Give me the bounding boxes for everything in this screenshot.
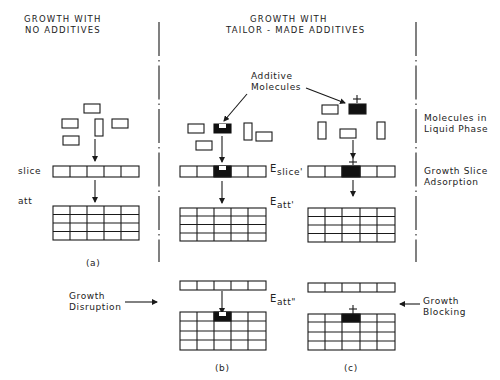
label-molecules-liquid-1: Molecules in [424, 113, 487, 124]
panel-a-slice [53, 166, 139, 177]
label-growth-slice-1: Growth Slice [424, 166, 488, 177]
label-molecules-liquid-2: Liquid Phase [424, 124, 488, 135]
energy-label-e-slice: Eslice' [270, 163, 303, 175]
row-label-slice: slice [18, 166, 41, 177]
label-growth-blocking-1: Growth [423, 296, 459, 307]
label-additive-molecules-1: Additive [251, 71, 293, 82]
label-additive-molecules-2: Molecules [251, 82, 301, 93]
e-att-subscript: att' [277, 200, 294, 210]
bottom-c-lattice [308, 314, 395, 350]
panel-c-lattice [308, 208, 395, 242]
e-att-symbol: E [270, 196, 277, 207]
header-center-line1: GROWTH WITH [250, 14, 328, 25]
additive-pointer-b [224, 94, 247, 121]
e-att2-subscript: att" [277, 297, 296, 307]
panel-b-lattice [180, 208, 266, 241]
caption-b: (b) [215, 363, 230, 374]
panel-a-molecules [62, 104, 128, 145]
e-att2-symbol: E [270, 293, 277, 304]
energy-label-e-att-double: Eatt" [270, 293, 296, 305]
panel-a-lattice [53, 206, 139, 240]
panel-c-slice [308, 166, 395, 177]
bottom-c-slice [308, 283, 395, 292]
label-growth-blocking-2: Blocking [423, 307, 466, 318]
e-slice-symbol: E [270, 163, 277, 174]
header-left-line1: GROWTH WITH [24, 14, 102, 25]
caption-c: (c) [344, 363, 358, 374]
header-center-line2: TAILOR - MADE ADDITIVES [226, 25, 365, 36]
bottom-b-lattice [180, 312, 266, 350]
label-growth-slice-2: Adsorption [424, 177, 479, 188]
header-left-line2: NO ADDITIVES [25, 25, 101, 36]
label-growth-disruption-2: Disruption [69, 302, 121, 313]
panel-b-slice [180, 166, 266, 177]
additive-molecule-c [349, 104, 366, 114]
crystal-growth-diagram [0, 0, 500, 380]
additive-pointer-c [306, 88, 345, 103]
caption-a: (a) [86, 258, 100, 269]
e-slice-subscript: slice' [277, 167, 303, 177]
label-growth-disruption-1: Growth [69, 291, 105, 302]
row-label-att: att [18, 196, 32, 207]
bottom-b-slice [180, 281, 266, 290]
energy-label-e-att: Eatt' [270, 196, 294, 208]
